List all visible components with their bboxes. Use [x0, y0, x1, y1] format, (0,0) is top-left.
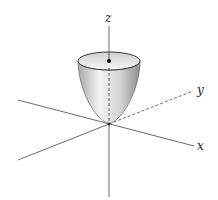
y-axis-negative: [18, 124, 109, 160]
paraboloid-diagram: z y x: [0, 0, 218, 200]
diagram-canvas: z y x: [0, 0, 218, 200]
y-axis-label: y: [196, 83, 204, 97]
center-point: [107, 59, 111, 63]
origin-point: [108, 123, 111, 126]
x-axis-label: x: [197, 139, 204, 153]
z-axis-label: z: [104, 11, 112, 25]
